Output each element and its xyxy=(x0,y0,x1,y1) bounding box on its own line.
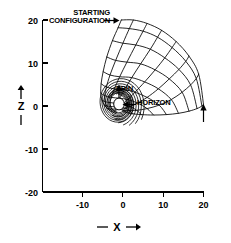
mesh-surface xyxy=(100,20,203,125)
z-axis-ticklabels: 20 10 0 -10 -20 xyxy=(25,16,38,198)
x-axis-title: X xyxy=(97,221,141,233)
starting-configuration-line2: CONFIGURATION xyxy=(38,17,110,25)
horizon-label: HORIZON xyxy=(137,99,171,107)
x-axis-ticks xyxy=(83,192,204,197)
z-tick-neg20: -20 xyxy=(25,188,38,198)
z-axis-title: Z xyxy=(18,85,25,125)
z-axis-ticks xyxy=(43,20,48,192)
z-tick-20: 20 xyxy=(28,16,38,26)
right-edge-arrowhead xyxy=(200,104,206,111)
x-axis-title-label: X xyxy=(113,221,121,233)
z-tick-neg10: -10 xyxy=(25,145,38,155)
z-tick-0: 0 xyxy=(33,102,38,112)
figure-canvas: 20 10 0 -10 -20 -10 0 10 20 X xyxy=(0,0,231,243)
x-axis-ticklabels: -10 0 10 20 xyxy=(76,200,209,210)
x-tick-0: 0 xyxy=(120,200,125,210)
spin-label: SPIN xyxy=(116,85,133,93)
starting-configuration-arrowhead xyxy=(114,17,120,23)
z-tick-10: 10 xyxy=(28,59,38,69)
x-tick-10: 10 xyxy=(158,200,168,210)
starting-configuration-label: STARTING CONFIGURATION xyxy=(38,9,110,25)
x-tick-20: 20 xyxy=(198,200,208,210)
z-axis-title-label: Z xyxy=(18,100,25,112)
x-tick-neg10: -10 xyxy=(76,200,89,210)
x-axis-title-arrowhead xyxy=(136,224,141,231)
z-axis-title-arrowhead xyxy=(18,85,25,90)
horizon-circle xyxy=(114,98,125,110)
spiral-horizon-plot: 20 10 0 -10 -20 -10 0 10 20 X xyxy=(0,0,231,243)
